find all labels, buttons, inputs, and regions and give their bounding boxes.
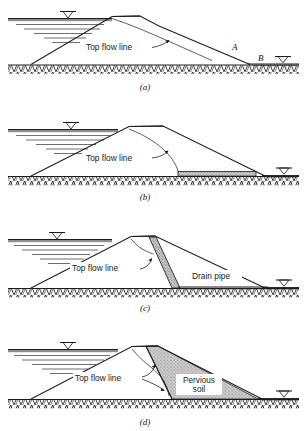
top-flow-line-a	[112, 19, 212, 61]
water-band-a	[8, 19, 112, 21]
water-table-icon-c	[49, 233, 65, 240]
chimney-drain-c	[149, 237, 180, 288]
panel-a: Top flow line A B (a)	[0, 0, 307, 100]
water-band-b	[8, 130, 118, 132]
ground-hatch-d	[8, 400, 299, 408]
figure-root: Top flow line A B (a)	[0, 0, 307, 431]
ground-hatch-c	[8, 289, 299, 297]
top-flow-line-label-a: Top flow line	[86, 42, 132, 52]
water-lines-a	[16, 25, 104, 43]
caption-b: (b)	[140, 192, 151, 202]
ground-hatch-a	[8, 65, 299, 73]
caption-d: (d)	[140, 417, 151, 427]
water-lines-b	[16, 136, 110, 154]
drain-pipe-label-c: Drain pipe	[192, 271, 231, 281]
caption-c: (c)	[140, 303, 150, 313]
point-label-a: A	[231, 42, 238, 52]
point-label-b: B	[258, 53, 264, 63]
panel-b: Top flow line (b)	[0, 100, 307, 205]
water-band-c	[8, 240, 112, 242]
leader-d-lower	[142, 379, 164, 390]
drainage-blanket-b	[178, 172, 256, 177]
top-flow-line-label-c: Top flow line	[72, 263, 118, 273]
top-flow-line-label-b: Top flow line	[86, 153, 132, 163]
top-flow-line-c	[131, 239, 154, 254]
dam-outline-a	[31, 16, 250, 65]
water-band-d	[8, 350, 118, 352]
caption-a: (a)	[140, 82, 151, 92]
water-lines-c	[14, 246, 104, 264]
panel-c: Top flow line Drain pipe (c)	[0, 205, 307, 317]
dam-outline-b	[31, 126, 265, 176]
pervious-soil-label-line2: soil	[193, 385, 205, 394]
top-flow-line-label-d: Top flow line	[75, 373, 121, 383]
ground-hatch-b	[8, 177, 299, 185]
water-table-icon-b	[63, 123, 79, 130]
water-lines-d	[14, 356, 110, 374]
leader-arrow-d-upper	[152, 365, 156, 369]
water-table-icon-d	[60, 343, 76, 350]
water-table-icon-a	[60, 12, 76, 19]
pervious-soil-label-line1: Pervious	[183, 376, 215, 385]
leader-arrow-c	[148, 258, 152, 262]
panel-d: Top flow line Pervious soil (d)	[0, 315, 307, 431]
